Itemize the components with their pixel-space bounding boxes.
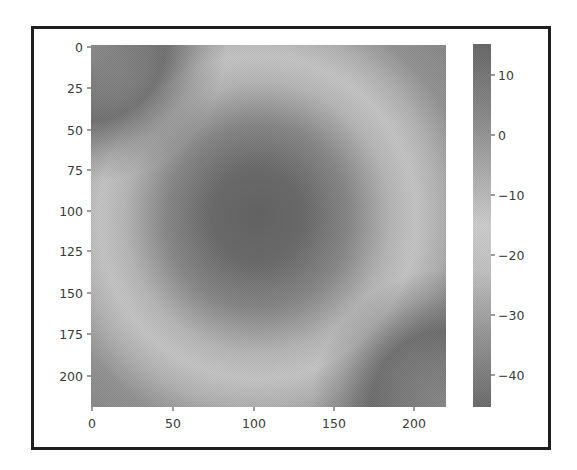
colorbar-tick-label: −20 (498, 248, 524, 263)
x-axis (92, 407, 414, 411)
y-tick-label: 175 (59, 327, 83, 342)
heatmap-image (91, 45, 446, 407)
x-tick-labels: 0 50 100 150 200 (88, 416, 426, 431)
y-tick-label: 50 (67, 123, 83, 138)
y-tick-labels: 0 25 50 75 100 125 150 175 200 (59, 40, 83, 384)
x-tick-label: 100 (242, 416, 266, 431)
y-axis (87, 47, 91, 376)
colorbar-tick-label: −40 (498, 368, 524, 383)
y-tick-label: 25 (67, 81, 83, 96)
colorbar-tick-labels: 10 0 −10 −20 −30 −40 (498, 68, 524, 383)
heatmap-figure: 0 25 50 75 100 125 150 175 200 0 50 100 … (0, 0, 577, 470)
colorbar-tick-label: −30 (498, 308, 524, 323)
colorbar-tick-label: 10 (498, 68, 514, 83)
colorbar-tick-label: 0 (498, 128, 506, 143)
y-tick-label: 100 (59, 204, 83, 219)
y-tick-label: 0 (75, 40, 83, 55)
y-tick-label: 75 (67, 163, 83, 178)
x-tick-label: 200 (402, 416, 426, 431)
y-tick-label: 150 (59, 286, 83, 301)
y-tick-label: 125 (59, 244, 83, 259)
x-tick-label: 150 (322, 416, 346, 431)
colorbar-tick-label: −10 (498, 188, 524, 203)
x-tick-label: 50 (165, 416, 181, 431)
colorbar (473, 44, 491, 407)
x-tick-label: 0 (88, 416, 96, 431)
y-tick-label: 200 (59, 369, 83, 384)
colorbar-ticks (491, 75, 495, 375)
